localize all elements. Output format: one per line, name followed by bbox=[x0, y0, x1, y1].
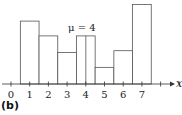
tick-label: 1 bbox=[27, 89, 33, 100]
mean-annotation: μ = 4 bbox=[68, 22, 96, 33]
bar-7 bbox=[133, 4, 152, 84]
panel-label: (b) bbox=[1, 99, 19, 112]
bar-3 bbox=[58, 53, 77, 84]
tick-label: 6 bbox=[120, 89, 126, 100]
tick-label: 5 bbox=[101, 89, 107, 100]
x-axis-label: x bbox=[176, 77, 182, 90]
bar-6 bbox=[114, 51, 133, 84]
x-axis: 01234567 bbox=[2, 82, 179, 101]
tick-label: 3 bbox=[64, 89, 70, 100]
tick-label: 4 bbox=[83, 89, 89, 100]
histogram-chart: 01234567 μ = 4 x bbox=[0, 0, 182, 115]
bar-1 bbox=[20, 21, 39, 84]
axis-arrow-icon bbox=[170, 82, 175, 87]
tick-label: 2 bbox=[45, 89, 51, 100]
tick-label: 7 bbox=[139, 89, 145, 100]
bar-2 bbox=[39, 36, 58, 84]
